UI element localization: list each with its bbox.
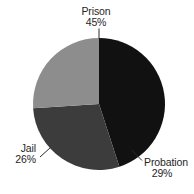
pie-slices [33, 38, 165, 170]
label-jail-value: 26% [15, 153, 36, 165]
pie-chart-canvas: Prison 45% Probation 29% Jail 26% [0, 0, 194, 194]
pie-chart: Prison 45% Probation 29% Jail 26% [0, 0, 194, 194]
label-probation-value: 29% [152, 167, 173, 179]
label-prison-value: 45% [86, 16, 107, 28]
